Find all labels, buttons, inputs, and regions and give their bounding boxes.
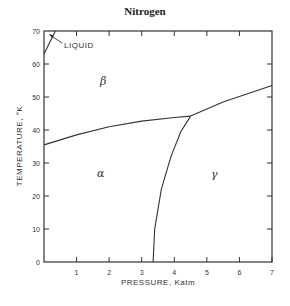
region-alpha-label: α	[97, 167, 105, 180]
phase-diagram: 1234567010203040506070 LIQUID β α γ PRES…	[0, 0, 290, 306]
x-tick-label: 1	[75, 269, 79, 276]
liquid-label: LIQUID	[64, 41, 94, 50]
y-tick-label: 20	[32, 193, 40, 200]
x-tick-label: 4	[172, 269, 176, 276]
x-tick-label: 6	[237, 269, 241, 276]
y-tick-label: 30	[32, 160, 40, 167]
axis-ticks	[44, 31, 272, 262]
y-tick-label: 70	[32, 28, 40, 35]
y-tick-label: 40	[32, 127, 40, 134]
y-tick-label: 10	[32, 226, 40, 233]
phase-boundary-line	[44, 116, 191, 145]
x-tick-label: 5	[205, 269, 209, 276]
axis-tick-labels: 1234567010203040506070	[32, 28, 274, 277]
phase-boundary-line	[153, 116, 191, 262]
region-gamma-label: γ	[211, 168, 218, 181]
x-tick-label: 7	[270, 269, 274, 276]
y-tick-label: 50	[32, 94, 40, 101]
x-axis-title: PRESSURE, Katm	[121, 278, 195, 287]
plot-frame	[44, 31, 272, 262]
region-beta-label: β	[99, 75, 106, 88]
x-tick-label: 2	[107, 269, 111, 276]
y-axis-title: TEMPERATURE, °K	[15, 106, 24, 187]
y-tick-label: 0	[36, 259, 40, 266]
phase-boundary-line	[191, 86, 272, 117]
phase-boundaries	[44, 31, 272, 262]
y-tick-label: 60	[32, 61, 40, 68]
x-tick-label: 3	[140, 269, 144, 276]
